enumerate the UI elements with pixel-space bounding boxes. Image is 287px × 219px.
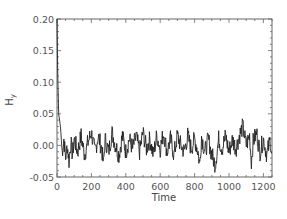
- x-tick-label: 400: [117, 181, 135, 192]
- svg-text:Hy: Hy: [4, 94, 17, 106]
- x-tick-label: 1200: [251, 181, 275, 192]
- plot-area: [57, 19, 272, 177]
- x-axis-tick-labels: 020040060080010001200: [54, 181, 276, 192]
- x-tick-label: 200: [82, 181, 100, 192]
- y-tick-label: 0.00: [33, 140, 54, 151]
- y-tick-label: 0.10: [33, 77, 54, 88]
- y-tick-label: 0.05: [33, 108, 54, 119]
- y-axis-label: Hy: [4, 94, 17, 106]
- y-tick-label: -0.05: [29, 172, 54, 183]
- x-tick-label: 1000: [217, 181, 241, 192]
- x-axis-label: Time: [151, 192, 176, 203]
- y-tick-label: 0.15: [33, 45, 54, 56]
- plot-frame: [57, 19, 272, 177]
- x-tick-label: 0: [54, 181, 60, 192]
- y-tick-label: 0.20: [33, 14, 54, 25]
- x-tick-label: 800: [186, 181, 204, 192]
- y-axis-tick-labels: -0.050.000.050.100.150.20: [29, 14, 54, 183]
- x-tick-label: 600: [151, 181, 169, 192]
- line-chart: 020040060080010001200 -0.050.000.050.100…: [0, 0, 287, 219]
